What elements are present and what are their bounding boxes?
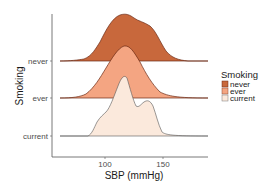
legend-swatch-ever (222, 88, 228, 94)
x-axis-title: SBP (mmHg) (105, 170, 164, 181)
legend-label-current: current (230, 94, 256, 103)
y-tick-label-ever: ever (32, 94, 48, 103)
y-tick-label-never: never (28, 57, 48, 66)
legend-title: Smoking (221, 69, 258, 80)
legend-swatch-current (222, 95, 228, 101)
x-tick-label-100: 100 (98, 160, 112, 169)
x-tick-label-150: 150 (156, 160, 170, 169)
ridgeline-chart: never ever current 100 150 SBP (mmHg) Sm… (0, 0, 275, 189)
legend: Smoking never ever current (221, 69, 258, 103)
ridge-ever (60, 46, 208, 98)
y-tick-label-current: current (23, 132, 49, 141)
legend-swatch-never (222, 81, 228, 87)
ridges (60, 14, 208, 136)
y-axis-title: Smoking (14, 67, 25, 106)
